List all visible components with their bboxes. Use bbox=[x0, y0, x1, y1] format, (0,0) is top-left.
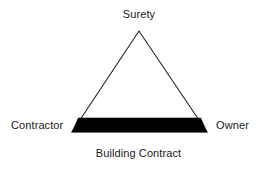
triangle-graphic bbox=[0, 0, 265, 170]
label-building-contract: Building Contract bbox=[0, 147, 265, 160]
building-contract-band bbox=[72, 118, 207, 132]
label-surety: Surety bbox=[0, 8, 265, 21]
surety-triangle-diagram: Surety Contractor Owner Building Contrac… bbox=[0, 0, 265, 170]
label-owner: Owner bbox=[216, 119, 249, 132]
triangle-body bbox=[72, 31, 207, 132]
label-contractor: Contractor bbox=[11, 119, 63, 132]
